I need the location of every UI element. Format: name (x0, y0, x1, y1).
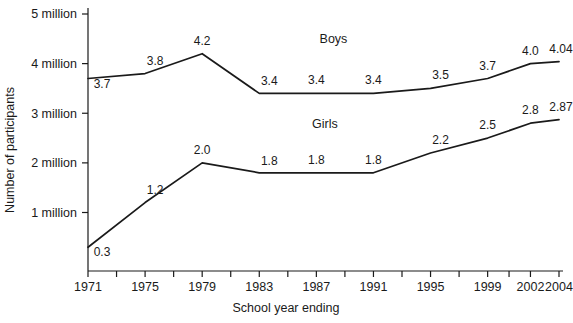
data-point-labels: 3.73.84.23.43.43.43.53.74.04.040.31.22.0… (94, 34, 573, 260)
data-point-label: 3.4 (261, 74, 278, 88)
y-axis-tick-label: 1 million (31, 206, 77, 220)
data-point-label: 3.5 (432, 68, 449, 82)
data-point-label: 3.7 (94, 77, 111, 91)
x-axis-tick-label: 1971 (74, 280, 102, 294)
x-axis-title: School year ending (232, 301, 339, 315)
y-axis-tick-label: 3 million (31, 107, 77, 121)
x-axis-tick-label: 1979 (188, 280, 216, 294)
data-point-label: 0.3 (94, 245, 111, 259)
x-axis-tick-label: 2004 (545, 280, 573, 294)
data-point-label: 3.8 (147, 54, 164, 68)
y-axis-tick-label: 5 million (31, 7, 77, 21)
data-point-label: 2.0 (194, 143, 211, 157)
series-label-girls: Girls (312, 117, 338, 131)
data-point-label: 4.2 (194, 34, 211, 48)
x-axis-tick-label: 2002 (517, 280, 545, 294)
axes-group (88, 8, 563, 271)
x-axis-tick-label: 1975 (131, 280, 159, 294)
data-point-label: 4.04 (549, 42, 573, 56)
y-axis-tick-label: 4 million (31, 57, 77, 71)
data-point-label: 2.2 (432, 133, 449, 147)
data-point-label: 2.87 (549, 100, 573, 114)
data-point-label: 3.7 (479, 59, 496, 73)
x-axis-ticks: 1971197519791983198719911995199920022004 (74, 271, 573, 294)
line-chart-figure: 1 million2 million3 million4 million5 mi… (0, 0, 573, 323)
data-point-label: 4.0 (522, 44, 539, 58)
y-axis-tick-label: 2 million (31, 156, 77, 170)
chart-canvas: 1 million2 million3 million4 million5 mi… (0, 0, 573, 323)
x-axis-tick-label: 1991 (360, 280, 388, 294)
data-point-label: 1.8 (308, 153, 325, 167)
data-point-label: 1.8 (365, 153, 382, 167)
data-point-label: 3.4 (308, 73, 325, 87)
data-point-label: 2.8 (522, 103, 539, 117)
data-point-label: 1.8 (261, 154, 278, 168)
data-point-label: 1.2 (147, 183, 164, 197)
data-point-label: 2.5 (479, 118, 496, 132)
data-point-label: 3.4 (365, 73, 382, 87)
x-axis-tick-label: 1995 (417, 280, 445, 294)
series-label-boys: Boys (320, 32, 348, 46)
y-axis-ticks: 1 million2 million3 million4 million5 mi… (31, 7, 88, 220)
x-axis-tick-label: 1987 (302, 280, 330, 294)
x-axis-tick-label: 1999 (474, 280, 502, 294)
y-axis-title: Number of participants (3, 87, 17, 213)
x-axis-tick-label: 1983 (245, 280, 273, 294)
